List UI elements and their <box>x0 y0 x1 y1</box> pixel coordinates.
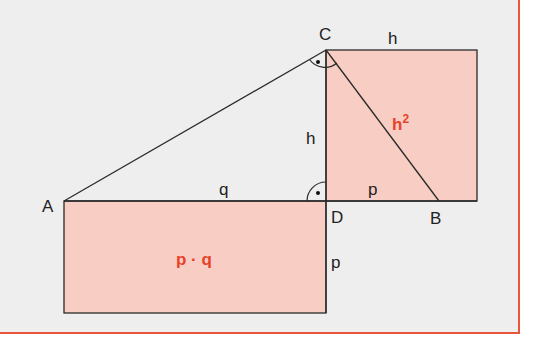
vertex-label-C: C <box>319 25 331 44</box>
height-theorem-diagram: A B C D q p h h p h2 p · q <box>0 0 534 339</box>
right-angle-dot-C <box>316 60 320 64</box>
right-angle-dot-D <box>316 191 320 195</box>
vertex-label-B: B <box>430 209 441 228</box>
segment-label-p-base: p <box>368 180 377 199</box>
segment-label-p-rect: p <box>331 253 340 272</box>
vertex-label-A: A <box>42 197 54 216</box>
vertex-label-D: D <box>331 208 343 227</box>
area-label-p-times-q: p · q <box>176 250 212 269</box>
segment-label-h-square: h <box>388 29 397 48</box>
segment-label-q: q <box>219 180 228 199</box>
diagram-canvas: A B C D q p h h p h2 p · q <box>0 0 534 339</box>
segment-label-h-altitude: h <box>306 129 315 148</box>
